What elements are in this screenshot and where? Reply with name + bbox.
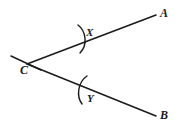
arc-mark-y xyxy=(79,76,87,104)
geometry-diagram: C A B X Y xyxy=(0,0,184,132)
ray-ca xyxy=(27,15,156,64)
ray-cb xyxy=(27,64,156,116)
ray-endpoint-label-a: A xyxy=(160,7,168,19)
vertex-label-c: C xyxy=(20,64,28,76)
ray-endpoint-label-b: B xyxy=(160,109,168,121)
arc-mark-label-x: X xyxy=(86,27,93,38)
arc-mark-x xyxy=(78,25,85,53)
arc-mark-label-y: Y xyxy=(87,93,94,104)
